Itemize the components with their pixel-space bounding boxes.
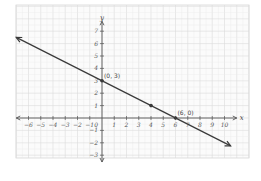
- y-tick-label: 1: [94, 102, 98, 109]
- x-tick-label: 1: [112, 121, 116, 128]
- y-tick-label: 2: [93, 89, 98, 96]
- y-tick-label: −2: [89, 139, 98, 146]
- y-tick-label: −3: [89, 151, 98, 158]
- x-tick-label: −6: [24, 121, 33, 128]
- x-tick-label: −2: [73, 121, 82, 128]
- origin-label: 0: [94, 121, 98, 128]
- x-axis-label: x: [240, 114, 244, 122]
- y-tick-label: 4: [93, 64, 98, 71]
- x-tick-label: 4: [148, 121, 153, 128]
- x-tick-label: 8: [198, 121, 202, 128]
- x-tick-label: −4: [49, 121, 58, 128]
- x-tick-label: −3: [61, 121, 70, 128]
- data-point-label: (6, 0): [178, 109, 194, 116]
- coordinate-plane: xy −6−5−4−3−2−112345678910−3−2−112345670…: [0, 0, 261, 181]
- x-tick-label: 6: [174, 121, 178, 128]
- data-point: [100, 79, 104, 83]
- x-tick-label: 9: [210, 121, 214, 128]
- data-point-label: (0, 3): [104, 72, 120, 79]
- y-tick-label: 7: [94, 27, 98, 34]
- x-tick-label: 3: [137, 121, 141, 128]
- y-tick-label: 6: [94, 40, 98, 47]
- x-tick-label: 2: [124, 121, 129, 128]
- x-tick-label: 10: [221, 121, 229, 128]
- y-tick-label: 5: [94, 52, 98, 59]
- data-point: [174, 116, 178, 120]
- x-tick-label: 5: [161, 121, 165, 128]
- data-point: [149, 104, 153, 108]
- x-tick-label: −5: [36, 121, 45, 128]
